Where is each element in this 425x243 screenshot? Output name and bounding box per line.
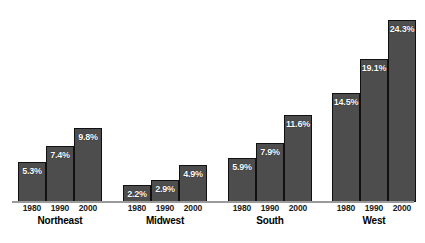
- year-tick-labels: 198019902000: [123, 203, 207, 215]
- year-tick-labels: 198019902000: [18, 203, 102, 215]
- year-tick-labels: 198019902000: [228, 203, 312, 215]
- year-label-2000: 2000: [388, 203, 416, 213]
- bars-container: 5.9%7.9%11.6%: [228, 0, 312, 202]
- bar-value-label: 24.3%: [390, 24, 415, 34]
- bar-south-2000[interactable]: 11.6%: [284, 115, 312, 202]
- group-labels-midwest: 198019902000Midwest: [123, 203, 207, 243]
- bar-midwest-1980[interactable]: 2.2%: [123, 185, 151, 202]
- bar-value-label: 2.2%: [127, 189, 147, 199]
- bar-value-label: 5.9%: [232, 162, 252, 172]
- bar-value-label: 7.4%: [50, 150, 70, 160]
- region-label-west: West: [332, 215, 416, 226]
- year-label-1980: 1980: [228, 203, 256, 213]
- year-label-1990: 1990: [46, 203, 74, 213]
- bars-container: 5.3%7.4%9.8%: [18, 0, 102, 202]
- bar-west-1990[interactable]: 19.1%: [360, 59, 388, 202]
- year-label-2000: 2000: [284, 203, 312, 213]
- bar-midwest-2000[interactable]: 4.9%: [179, 165, 207, 202]
- year-label-1980: 1980: [332, 203, 360, 213]
- bar-chart: 5.3%7.4%9.8%2.2%2.9%4.9%5.9%7.9%11.6%14.…: [0, 0, 425, 243]
- region-label-south: South: [228, 215, 312, 226]
- year-label-1990: 1990: [360, 203, 388, 213]
- year-label-1990: 1990: [256, 203, 284, 213]
- year-label-1990: 1990: [151, 203, 179, 213]
- bar-group-northeast: 5.3%7.4%9.8%: [18, 0, 102, 202]
- year-label-2000: 2000: [74, 203, 102, 213]
- year-label-2000: 2000: [179, 203, 207, 213]
- bar-value-label: 19.1%: [362, 63, 387, 73]
- bar-northeast-1980[interactable]: 5.3%: [18, 162, 46, 202]
- bar-group-south: 5.9%7.9%11.6%: [228, 0, 312, 202]
- bar-south-1990[interactable]: 7.9%: [256, 143, 284, 202]
- year-label-1980: 1980: [18, 203, 46, 213]
- bar-value-label: 14.5%: [334, 97, 359, 107]
- year-tick-labels: 198019902000: [332, 203, 416, 215]
- bar-value-label: 4.9%: [183, 169, 203, 179]
- bar-south-1980[interactable]: 5.9%: [228, 158, 256, 202]
- region-label-midwest: Midwest: [123, 215, 207, 226]
- bar-midwest-1990[interactable]: 2.9%: [151, 180, 179, 202]
- group-labels-northeast: 198019902000Northeast: [18, 203, 102, 243]
- bar-west-1980[interactable]: 14.5%: [332, 93, 360, 202]
- bars-container: 14.5%19.1%24.3%: [332, 0, 416, 202]
- bars-container: 2.2%2.9%4.9%: [123, 0, 207, 202]
- bar-value-label: 5.3%: [22, 166, 42, 176]
- bar-group-west: 14.5%19.1%24.3%: [332, 0, 416, 202]
- group-labels-south: 198019902000South: [228, 203, 312, 243]
- plot-area: 5.3%7.4%9.8%2.2%2.9%4.9%5.9%7.9%11.6%14.…: [0, 0, 425, 202]
- bar-northeast-1990[interactable]: 7.4%: [46, 146, 74, 202]
- bar-value-label: 2.9%: [155, 184, 175, 194]
- bar-northeast-2000[interactable]: 9.8%: [74, 128, 102, 202]
- bar-group-midwest: 2.2%2.9%4.9%: [123, 0, 207, 202]
- bar-value-label: 7.9%: [260, 147, 280, 157]
- region-label-northeast: Northeast: [18, 215, 102, 226]
- group-labels-west: 198019902000West: [332, 203, 416, 243]
- bar-value-label: 9.8%: [78, 132, 98, 142]
- year-label-1980: 1980: [123, 203, 151, 213]
- bar-value-label: 11.6%: [286, 119, 310, 129]
- bar-west-2000[interactable]: 24.3%: [388, 20, 416, 202]
